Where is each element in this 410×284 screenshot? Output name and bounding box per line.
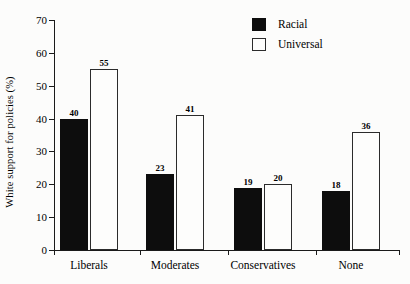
x-axis-tick-mark xyxy=(228,250,229,255)
bar-value-label: 18 xyxy=(332,180,341,191)
legend-label-racial: Racial xyxy=(278,17,307,31)
y-axis-tick-mark xyxy=(49,151,54,152)
y-axis-tick-label: 40 xyxy=(36,111,47,127)
bar-conservatives-racial: 19 xyxy=(234,188,262,250)
y-axis-tick-mark xyxy=(49,20,54,21)
x-axis-tick-mark xyxy=(316,250,317,255)
bar-liberals-universal: 55 xyxy=(90,69,118,250)
bar-none-universal: 36 xyxy=(352,132,380,250)
x-axis-tick-mark xyxy=(54,250,55,255)
y-axis-tick-label: 60 xyxy=(36,45,47,61)
y-axis-line xyxy=(54,20,55,250)
bar-value-label: 20 xyxy=(274,173,283,184)
x-axis-tick-mark xyxy=(140,250,141,255)
bar-conservatives-universal: 20 xyxy=(264,184,292,250)
y-axis-tick-label: 50 xyxy=(36,78,47,94)
bar-value-label: 19 xyxy=(244,177,253,188)
chart-legend: RacialUniversal xyxy=(252,14,323,54)
bar-value-label: 36 xyxy=(362,121,371,132)
legend-swatch-racial xyxy=(252,18,266,31)
x-axis-tick-mark xyxy=(399,250,400,255)
legend-item-racial: Racial xyxy=(252,14,323,34)
legend-label-universal: Universal xyxy=(278,37,323,51)
plot-area: 010203040506070 4055234119201836 Liberal… xyxy=(54,20,400,250)
bar-moderates-racial: 23 xyxy=(146,174,174,250)
y-axis-tick-mark xyxy=(49,184,54,185)
y-axis-tick-mark xyxy=(49,53,54,54)
y-axis-tick-label: 0 xyxy=(42,242,48,258)
y-axis-tick-label: 20 xyxy=(36,176,47,192)
y-axis-title: White support for policies (%) xyxy=(0,0,18,284)
x-axis-label-none: None xyxy=(339,258,364,272)
bar-liberals-racial: 40 xyxy=(60,119,88,250)
legend-swatch-universal xyxy=(252,38,266,51)
bar-value-label: 40 xyxy=(70,108,79,119)
bar-value-label: 55 xyxy=(100,58,109,69)
bar-value-label: 41 xyxy=(186,104,195,115)
bar-value-label: 23 xyxy=(156,163,165,174)
bar-moderates-universal: 41 xyxy=(176,115,204,250)
x-axis-label-moderates: Moderates xyxy=(151,258,200,272)
y-axis-tick-mark xyxy=(49,86,54,87)
y-axis-tick-mark xyxy=(49,119,54,120)
y-axis-tick-label: 10 xyxy=(36,209,47,225)
x-axis-label-conservatives: Conservatives xyxy=(230,258,295,272)
bar-chart-figure: White support for policies (%) 010203040… xyxy=(0,0,410,284)
bar-none-racial: 18 xyxy=(322,191,350,250)
y-axis-tick-label: 70 xyxy=(36,12,47,28)
legend-item-universal: Universal xyxy=(252,34,323,54)
x-axis-line xyxy=(54,250,400,251)
x-axis-label-liberals: Liberals xyxy=(70,258,108,272)
y-axis-tick-label: 30 xyxy=(36,143,47,159)
y-axis-tick-mark xyxy=(49,217,54,218)
